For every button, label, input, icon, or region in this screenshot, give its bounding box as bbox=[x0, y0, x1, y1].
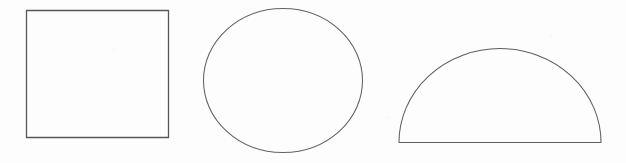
figure-canvas bbox=[0, 0, 626, 163]
circle-shape bbox=[204, 9, 363, 153]
shapes-figure bbox=[0, 0, 626, 163]
square-shape bbox=[27, 11, 169, 138]
semicircle-shape bbox=[399, 49, 601, 143]
